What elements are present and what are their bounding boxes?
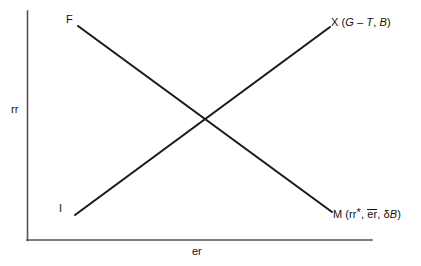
curve-label-m-name: M (333, 208, 342, 220)
curve-label-m: M (rr*, er, δB) (333, 209, 401, 220)
x-term-b: B (380, 16, 387, 28)
m-star: * (357, 206, 361, 218)
x-axis-label: er (192, 246, 202, 257)
ix-curve-line (75, 27, 330, 215)
y-axis-label: rr (11, 104, 18, 115)
curve-label-x: X (G – T, B) (331, 17, 391, 28)
m-term-rr: rr (349, 208, 357, 220)
diagram-canvas (0, 0, 421, 266)
x-term-g: G (345, 16, 354, 28)
m-term-er-bar: er (367, 209, 377, 220)
curve-label-i: I (59, 203, 62, 214)
economics-cross-diagram: F I X (G – T, B) M (rr*, er, δB) rr er (0, 0, 421, 266)
curve-label-f: F (66, 14, 73, 25)
x-close-paren: ) (387, 16, 391, 28)
m-close-paren: ) (397, 208, 401, 220)
